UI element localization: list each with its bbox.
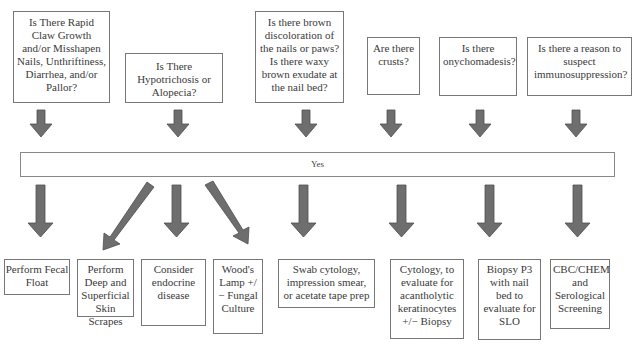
arrow-diagonal-down-left-icon <box>103 182 154 250</box>
action-box-endocrine-disease: Consider endocrine disease <box>141 259 206 326</box>
arrow-down-icon <box>291 185 316 237</box>
arrow-down-icon <box>295 110 317 137</box>
action-box-skin-scrapes: Perform Deep and Superficial Skin Scrape… <box>77 259 134 317</box>
question-box-onychomadesis: Is there onychomadesis? <box>439 37 517 96</box>
question-box-immunosuppression: Is there a reason to suspect immunosuppr… <box>527 37 632 96</box>
arrow-down-icon <box>469 110 491 137</box>
question-box-crusts: Are there crusts? <box>367 37 420 95</box>
question-box-brown-discoloration: Is there brown discoloration of the nail… <box>255 11 344 103</box>
arrow-down-icon <box>164 185 189 237</box>
yes-answer-bar: Yes <box>20 152 615 177</box>
action-box-cytology-acantholytic: Cytology, to evaluate for acantholytic k… <box>390 259 464 339</box>
arrow-diagonal-down-right-icon <box>205 181 249 244</box>
arrow-down-icon <box>565 110 587 137</box>
question-box-claw-growth: Is There Rapid Claw Growth and/or Missha… <box>13 11 110 103</box>
action-box-cbc-chem: CBC/CHEM and Serological Screening <box>550 259 610 329</box>
arrow-down-icon <box>28 185 53 237</box>
arrow-down-icon <box>389 185 414 237</box>
arrow-down-icon <box>380 110 402 137</box>
arrow-down-icon <box>167 110 189 137</box>
action-box-swab-cytology: Swab cytology, impression smear, or acet… <box>278 259 375 308</box>
question-box-alopecia: Is There Hypotrichosis or Alopecia? <box>125 53 223 103</box>
arrow-down-icon <box>477 185 502 237</box>
action-box-fecal-float: Perform Fecal Float <box>4 259 70 295</box>
arrow-down-icon <box>565 185 590 237</box>
arrow-down-icon <box>30 110 52 137</box>
action-box-woods-lamp: Wood's Lamp +/− Fungal Culture <box>213 259 263 334</box>
action-box-biopsy-p3: Biopsy P3 with nail bed to evaluate for … <box>478 259 541 340</box>
